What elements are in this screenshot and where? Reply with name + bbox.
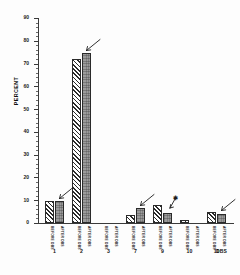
y-tick-label-50: 50 <box>23 106 29 112</box>
y-minor-tick <box>36 164 38 165</box>
y-minor-tick <box>36 73 38 74</box>
svg-text:✱: ✱ <box>173 195 178 201</box>
y-minor-tick <box>36 182 38 183</box>
bar-group-10 <box>180 18 199 223</box>
bar-chart: PERCENT 0102030405060708090 BEFORE DBSAF… <box>0 0 240 275</box>
y-minor-tick <box>36 150 38 151</box>
y-tick-label-40: 40 <box>23 128 29 134</box>
y-tick-label-0: 0 <box>26 219 29 225</box>
bar-9-before <box>153 205 162 223</box>
bar-caption: AFTER DBS <box>82 226 91 247</box>
x-group-label-3: 3 <box>99 248 118 254</box>
bar-caption-group-2: BEFORE DBSAFTER DBS <box>72 226 91 262</box>
y-tick-20: 20 <box>34 177 38 178</box>
bar-7-before <box>126 215 135 223</box>
bar-caption: BEFORE DBS <box>207 226 216 250</box>
y-tick-40: 40 <box>34 132 38 133</box>
bar-caption: AFTER DBS <box>109 226 118 247</box>
y-minor-tick <box>36 159 38 160</box>
bar-group-7 <box>126 18 145 223</box>
bar-caption: BEFORE DBS <box>72 226 81 250</box>
x-axis-line <box>38 223 234 224</box>
y-minor-tick <box>36 146 38 147</box>
x-group-label-10: 10 <box>180 248 199 254</box>
bar-11-before <box>207 212 216 223</box>
y-tick-0: 0 <box>34 223 38 224</box>
bar-2-after <box>82 53 91 223</box>
y-minor-tick <box>36 32 38 33</box>
y-tick-label-10: 10 <box>23 197 29 203</box>
y-minor-tick <box>36 23 38 24</box>
y-tick-label-20: 20 <box>23 174 29 180</box>
x-axis-caption: DBS <box>216 248 227 254</box>
bar-1-after <box>55 201 64 223</box>
y-tick-30: 30 <box>34 155 38 156</box>
bar-caption: AFTER DBS <box>55 226 64 247</box>
bar-caption: AFTER DBS <box>163 226 172 247</box>
bar-caption: BEFORE DBS <box>99 226 108 250</box>
bar-caption: AFTER DBS <box>217 226 226 247</box>
bar-7-after <box>136 208 145 223</box>
bar-group-11 <box>207 18 226 223</box>
y-minor-tick <box>36 173 38 174</box>
x-group-label-7: 7 <box>126 248 145 254</box>
bar-9-after <box>163 213 172 223</box>
y-minor-tick <box>36 59 38 60</box>
y-minor-tick <box>36 136 38 137</box>
y-tick-label-70: 70 <box>23 60 29 66</box>
plot-area: 0102030405060708090 BEFORE DBSAFTER DBSB… <box>38 18 234 224</box>
bar-11-after <box>217 214 226 223</box>
y-minor-tick <box>36 118 38 119</box>
y-minor-tick <box>36 36 38 37</box>
y-minor-tick <box>36 82 38 83</box>
bar-caption-group-3: BEFORE DBSAFTER DBS <box>99 226 118 262</box>
y-minor-tick <box>36 54 38 55</box>
x-group-label-9: 9 <box>153 248 172 254</box>
y-minor-tick <box>36 187 38 188</box>
y-minor-tick <box>36 127 38 128</box>
bar-caption-group-11: BEFORE DBSAFTER DBS <box>207 226 226 262</box>
y-tick-50: 50 <box>34 109 38 110</box>
y-minor-tick <box>36 100 38 101</box>
y-minor-tick <box>36 209 38 210</box>
x-group-label-2: 2 <box>72 248 91 254</box>
bar-1-before <box>45 201 54 223</box>
y-axis-line <box>38 18 39 224</box>
y-tick-80: 80 <box>34 41 38 42</box>
bar-10-before <box>180 220 189 223</box>
bar-group-1 <box>45 18 64 223</box>
y-minor-tick <box>36 191 38 192</box>
y-minor-tick <box>36 77 38 78</box>
y-tick-60: 60 <box>34 86 38 87</box>
bar-caption: BEFORE DBS <box>180 226 189 250</box>
y-minor-tick <box>36 123 38 124</box>
y-minor-tick <box>36 218 38 219</box>
y-tick-label-80: 80 <box>23 37 29 43</box>
y-minor-tick <box>36 27 38 28</box>
y-minor-tick <box>36 68 38 69</box>
y-minor-tick <box>36 168 38 169</box>
bar-caption-group-1: BEFORE DBSAFTER DBS <box>45 226 64 262</box>
bar-caption: AFTER DBS <box>190 226 199 247</box>
y-tick-10: 10 <box>34 200 38 201</box>
y-tick-label-60: 60 <box>23 83 29 89</box>
y-minor-tick <box>36 95 38 96</box>
bar-caption: AFTER DBS <box>136 226 145 247</box>
y-minor-tick <box>36 205 38 206</box>
y-minor-tick <box>36 141 38 142</box>
bar-group-3 <box>99 18 118 223</box>
bar-caption-group-9: BEFORE DBSAFTER DBS <box>153 226 172 262</box>
y-tick-90: 90 <box>34 18 38 19</box>
y-axis-label: PERCENT <box>13 61 19 121</box>
bar-caption: BEFORE DBS <box>153 226 162 250</box>
bar-caption-group-7: BEFORE DBSAFTER DBS <box>126 226 145 262</box>
bar-group-9 <box>153 18 172 223</box>
bar-caption-group-10: BEFORE DBSAFTER DBS <box>180 226 199 262</box>
y-minor-tick <box>36 45 38 46</box>
y-minor-tick <box>36 214 38 215</box>
bar-caption: BEFORE DBS <box>126 226 135 250</box>
y-tick-label-30: 30 <box>23 151 29 157</box>
y-minor-tick <box>36 114 38 115</box>
bar-caption: BEFORE DBS <box>45 226 54 250</box>
x-group-label-1: 1 <box>45 248 64 254</box>
